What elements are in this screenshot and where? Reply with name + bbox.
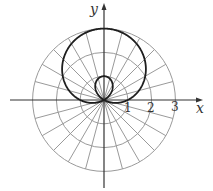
x-axis-label: x	[196, 101, 204, 115]
grid-ray	[104, 100, 122, 169]
polar-plot	[0, 0, 213, 191]
tick-label-3: 3	[171, 101, 179, 113]
y-axis-arrow-icon	[102, 3, 107, 10]
grid-ray	[86, 100, 104, 169]
y-axis-label: y	[90, 2, 98, 16]
tick-label-1: 1	[124, 102, 132, 114]
tick-label-2: 2	[147, 102, 155, 114]
